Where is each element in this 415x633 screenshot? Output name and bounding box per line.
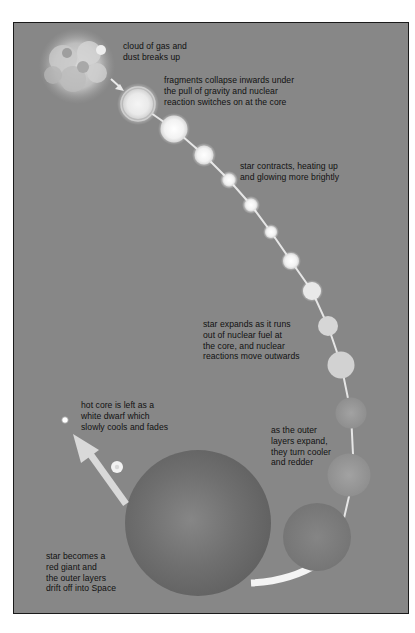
label-fragments-collapse: fragments collapse inwards under the pul… bbox=[164, 75, 294, 107]
label-star-expands: star expands as it runs out of nuclear f… bbox=[203, 319, 300, 362]
collapse-arrow-icon bbox=[111, 79, 124, 91]
label-red-giant: star becomes a red giant and the outer l… bbox=[46, 551, 116, 594]
ejected-core-icon bbox=[111, 461, 123, 473]
label-white-dwarf: hot core is left as a white dwarf which … bbox=[81, 400, 168, 432]
label-gas-cloud: cloud of gas and dust breaks up bbox=[123, 41, 187, 63]
label-star-contracts: star contracts, heating up and glowing m… bbox=[240, 161, 339, 183]
diagram-panel bbox=[13, 22, 409, 614]
gas-cloud-icon bbox=[39, 28, 115, 104]
white-dwarf-icon bbox=[61, 416, 69, 424]
red-giant-icon bbox=[125, 450, 271, 596]
protostar-icon bbox=[117, 83, 159, 125]
label-outer-layers: as the outer layers expand, they turn co… bbox=[271, 425, 331, 468]
